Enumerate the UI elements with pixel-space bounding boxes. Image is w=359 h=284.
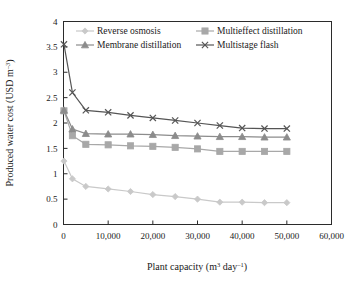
data-point-square xyxy=(69,133,75,139)
data-point-square xyxy=(217,148,223,154)
y-tick-label: 3.5 xyxy=(46,42,58,52)
y-tick-label: 2 xyxy=(53,118,58,128)
chart-figure: 00.511.522.533.54 010,00020,00030,00040,… xyxy=(0,0,359,284)
square-marker xyxy=(261,148,267,154)
data-point-square xyxy=(239,148,245,154)
x-tick-label: 0 xyxy=(61,231,66,241)
data-point-square xyxy=(150,143,156,149)
y-tick-label: 1.5 xyxy=(46,144,58,154)
data-point-square xyxy=(261,148,267,154)
y-axis-title: Produced water cost (USD m–3) xyxy=(4,59,17,186)
x-tick-label: 60,000 xyxy=(319,231,344,241)
y-tick-label: 3 xyxy=(53,67,58,77)
square-marker xyxy=(83,141,89,147)
y-tick-label: 1 xyxy=(53,169,58,179)
legend-label: Multieffect distillation xyxy=(217,26,303,36)
data-point-square xyxy=(83,141,89,147)
square-marker xyxy=(172,144,178,150)
square-marker xyxy=(194,146,200,152)
data-point-square xyxy=(172,144,178,150)
legend-label: Multistage flash xyxy=(217,40,279,50)
x-tick-label: 10,000 xyxy=(96,231,121,241)
y-tick-label: 0.5 xyxy=(46,194,58,204)
square-marker xyxy=(105,142,111,148)
square-marker xyxy=(69,133,75,139)
y-tick-label: 4 xyxy=(53,17,58,27)
legend-label: Membrane distillation xyxy=(97,40,181,50)
line-chart: 00.511.522.533.54 010,00020,00030,00040,… xyxy=(0,0,359,284)
square-marker xyxy=(217,148,223,154)
data-point-square xyxy=(127,143,133,149)
square-marker xyxy=(127,143,133,149)
data-point-square xyxy=(284,148,290,154)
data-point-square xyxy=(194,146,200,152)
y-tick-label: 0 xyxy=(53,220,58,230)
data-point-square xyxy=(105,142,111,148)
x-tick-label: 30,000 xyxy=(185,231,210,241)
data-point-square xyxy=(202,28,208,34)
x-tick-label: 40,000 xyxy=(230,231,255,241)
legend-label: Reverse osmosis xyxy=(97,26,161,36)
square-marker xyxy=(239,148,245,154)
y-tick-label: 2.5 xyxy=(46,93,58,103)
x-axis-title: Plant capacity (m3 day–1) xyxy=(147,261,247,274)
x-tick-label: 20,000 xyxy=(140,231,165,241)
x-tick-label: 50,000 xyxy=(274,231,299,241)
square-marker xyxy=(150,143,156,149)
square-marker xyxy=(202,28,208,34)
square-marker xyxy=(284,148,290,154)
